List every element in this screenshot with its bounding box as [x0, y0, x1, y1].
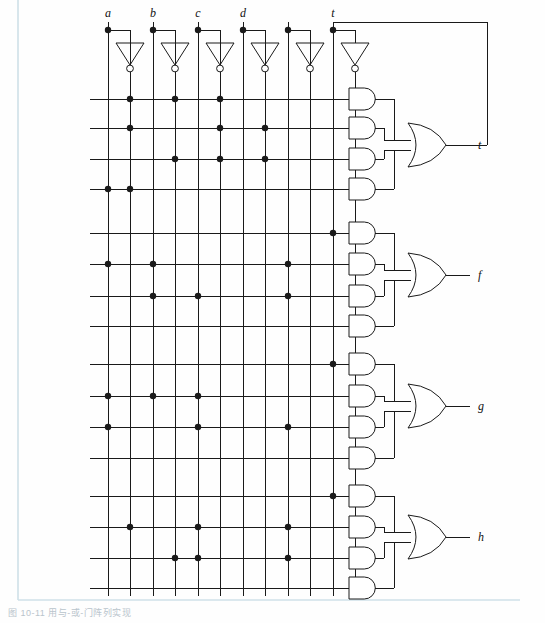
- connection-dot-r2-c7: [262, 156, 268, 162]
- and-gate-15: [349, 577, 375, 599]
- connection-dot-r2-c5: [217, 156, 223, 162]
- connection-dot-r5-c2: [150, 261, 156, 267]
- connection-dot-r2-c3: [172, 156, 178, 162]
- connection-dot-r6-c2: [150, 293, 156, 299]
- and-gate-5: [349, 253, 375, 275]
- output-label-g: g: [478, 399, 484, 413]
- connection-dot-r5-c0: [105, 261, 111, 267]
- and-gate-0: [349, 88, 375, 110]
- input-label-b: b: [150, 6, 156, 20]
- inverter-bubble-a: [127, 65, 134, 72]
- inverter-triangle-t: [341, 43, 369, 65]
- connection-dot-r6-c8: [285, 293, 291, 299]
- connection-dot-r4-c10: [330, 230, 336, 236]
- connection-dot-r13-c8: [285, 524, 291, 530]
- connection-dot-r10-c8: [285, 424, 291, 430]
- input-label-d: d: [240, 6, 247, 20]
- connection-dot-r14-c8: [285, 555, 291, 561]
- and-gate-10: [349, 416, 375, 438]
- inverter-bubble-b: [172, 65, 179, 72]
- connection-dot-r0-c3: [172, 96, 178, 102]
- connection-dot-r13-c1: [127, 524, 133, 530]
- input-label-a: a: [105, 6, 111, 20]
- and-gate-4: [349, 222, 375, 244]
- and-gate-13: [349, 516, 375, 538]
- connection-dot-r3-c0: [105, 186, 111, 192]
- connection-dot-r10-c4: [195, 424, 201, 430]
- and-gate-8: [349, 353, 375, 375]
- or-gate-f: [408, 253, 446, 297]
- and-gate-2: [349, 148, 375, 170]
- output-label-f: f: [478, 268, 483, 282]
- inverter-bubble-d: [262, 65, 269, 72]
- connection-dot-r1-c7: [262, 125, 268, 131]
- connection-dot-r1-c1: [127, 125, 133, 131]
- figure-canvas: abcdttfgh 图 10-11 用与-或-门阵列实现: [0, 0, 545, 623]
- connection-dot-r9-c2: [150, 393, 156, 399]
- connection-dot-r1-c5: [217, 125, 223, 131]
- figure-caption: 图 10-11 用与-或-门阵列实现: [8, 606, 131, 619]
- connection-dot-r10-c0: [105, 424, 111, 430]
- connection-dot-r13-c4: [195, 524, 201, 530]
- connection-dot-r14-c4: [195, 555, 201, 561]
- and-gate-11: [349, 447, 375, 469]
- or-gate-t: [408, 123, 446, 167]
- and-gate-6: [349, 285, 375, 307]
- or-gate-g: [408, 384, 446, 428]
- and-gate-12: [349, 485, 375, 507]
- connection-dot-r9-c4: [195, 393, 201, 399]
- input-label-t: t: [331, 6, 335, 20]
- and-gate-9: [349, 385, 375, 407]
- or-gate-h: [408, 515, 446, 559]
- output-label-h: h: [478, 530, 484, 544]
- connection-dot-r9-c0: [105, 393, 111, 399]
- input-label-c: c: [195, 6, 201, 20]
- connection-dot-r5-c8: [285, 261, 291, 267]
- and-gate-3: [349, 178, 375, 200]
- connection-dot-r14-c3: [172, 555, 178, 561]
- pla-logic-diagram: abcdttfgh: [0, 0, 545, 623]
- connection-dot-r3-c1: [127, 186, 133, 192]
- connection-dot-r6-c4: [195, 293, 201, 299]
- and-gate-1: [349, 117, 375, 139]
- connection-dot-r0-c1: [127, 96, 133, 102]
- connection-dot-r0-c5: [217, 96, 223, 102]
- connection-dot-r12-c10: [330, 493, 336, 499]
- inverter-bubble-e: [307, 65, 314, 72]
- and-gate-7: [349, 315, 375, 337]
- inverter-bubble-t: [352, 65, 359, 72]
- and-gate-14: [349, 547, 375, 569]
- connection-dot-r8-c10: [330, 361, 336, 367]
- inverter-bubble-c: [217, 65, 224, 72]
